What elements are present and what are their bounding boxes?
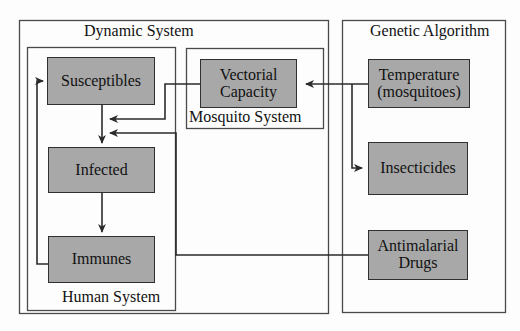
group-label-dynamic-system: Dynamic System [84, 22, 194, 40]
node-label-temperature-line2: (mosquitoes) [375, 84, 463, 101]
node-label-infected: Infected [73, 162, 129, 179]
node-label-antimalarial-drugs-line1: Antimalarial [376, 238, 461, 255]
node-label-vectorial-capacity-line1: Vectorial [218, 67, 280, 84]
diagram-canvas: Dynamic System Human System Mosquito Sys… [0, 0, 520, 331]
node-temperature[interactable]: Temperature (mosquitoes) [368, 59, 470, 108]
node-label-immunes: Immunes [70, 251, 134, 268]
node-vectorial-capacity[interactable]: Vectorial Capacity [200, 59, 297, 108]
group-label-human-system: Human System [62, 288, 160, 306]
edge-temperature-insecticides [352, 84, 362, 168]
node-label-susceptibles: Susceptibles [59, 73, 143, 90]
node-immunes[interactable]: Immunes [48, 236, 155, 283]
node-label-insecticides: Insecticides [378, 160, 458, 177]
edge-immunes-susceptibles [37, 81, 48, 264]
node-infected[interactable]: Infected [48, 147, 155, 193]
node-label-vectorial-capacity-line2: Capacity [218, 84, 279, 101]
node-label-temperature-line1: Temperature [377, 67, 462, 84]
group-label-genetic-algorithm: Genetic Algorithm [370, 22, 490, 40]
node-label-antimalarial-drugs-line2: Drugs [396, 255, 439, 272]
node-insecticides[interactable]: Insecticides [368, 142, 468, 195]
node-susceptibles[interactable]: Susceptibles [47, 57, 155, 105]
node-antimalarial-drugs[interactable]: Antimalarial Drugs [368, 230, 468, 280]
group-label-mosquito-system: Mosquito System [189, 108, 301, 126]
